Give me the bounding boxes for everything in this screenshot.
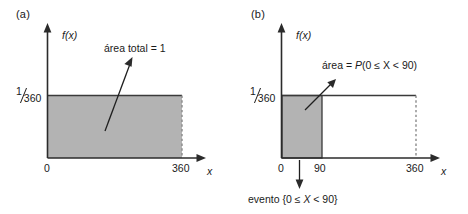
panel-b-event-caption-lead: evento {0 ≤ (248, 193, 303, 205)
panel-b-event-caption-tail: < 90} (310, 193, 337, 205)
panel-b-density-denominator: 360 (258, 92, 276, 104)
panel-b-density-value-label: 1360 (250, 88, 275, 103)
panel-a-xtick-0: 0 (44, 163, 50, 174)
panel-b-shaded-area (282, 96, 322, 159)
panel-b-x-axis-label: x (441, 166, 446, 177)
panel-b-area-annotation-lead: área = (322, 59, 355, 71)
panel-b-area-annotation: área = P(0 ≤ X < 90) (322, 60, 417, 71)
panel-b-xtick-90: 90 (314, 163, 326, 174)
panel-b-y-axis-arrowhead (278, 23, 286, 33)
uniform-distribution-figure: (a) (b) (0, 0, 468, 214)
panel-b-y-axis-label: f(x) (296, 30, 311, 41)
panel-a-density-numerator: 1 (16, 85, 22, 97)
panel-b-probability-symbol: P (355, 59, 362, 71)
panel-a-area-annotation: área total = 1 (104, 43, 166, 54)
panel-a-x-axis-arrowhead (197, 154, 207, 162)
panel-a-y-axis-arrowhead (44, 23, 52, 33)
panel-a-y-axis-label: f(x) (62, 30, 77, 41)
panel-b-xtick-0: 0 (278, 163, 284, 174)
panel-b-xtick-360: 360 (406, 163, 424, 174)
panel-a-xtick-360: 360 (172, 163, 190, 174)
panel-b-event-arrowhead (296, 180, 304, 190)
panel-b-density-numerator: 1 (250, 85, 256, 97)
panel-b-x-axis-arrowhead (431, 154, 441, 162)
panel-b-event-caption: evento {0 ≤ X < 90} (248, 194, 338, 205)
panel-a-annotation-arrowhead (124, 57, 132, 67)
panel-a-x-axis-label: x (207, 166, 212, 177)
panel-a-density-denominator: 360 (24, 92, 42, 104)
panel-a-density-value-label: 1360 (16, 88, 41, 103)
panel-b-area-annotation-expression: (0 ≤ X < 90) (362, 59, 417, 71)
